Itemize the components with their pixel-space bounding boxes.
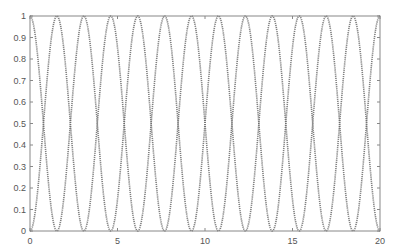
axes-box: [30, 16, 380, 231]
x-tick-label: 20: [375, 236, 385, 246]
plot-area: [30, 16, 380, 231]
y-tick-label: 0.9: [13, 33, 26, 43]
y-tick-label: 0.3: [13, 162, 26, 172]
y-tick-label: 0.8: [13, 54, 26, 64]
y-tick-label: 0.5: [13, 119, 26, 129]
y-tick-label: 0: [21, 226, 26, 236]
y-axis: 00.10.20.30.40.50.60.70.80.91: [13, 11, 380, 236]
series-layer: [30, 16, 380, 231]
x-tick-label: 5: [115, 236, 120, 246]
y-tick-label: 0.6: [13, 97, 26, 107]
x-tick-label: 15: [287, 236, 297, 246]
series-line-1: [30, 16, 380, 231]
x-tick-label: 0: [27, 236, 32, 246]
series-line-2: [30, 16, 380, 231]
line-chart: 05101520 00.10.20.30.40.50.60.70.80.91: [0, 0, 397, 252]
y-tick-label: 0.4: [13, 140, 26, 150]
y-tick-label: 1: [21, 11, 26, 21]
y-tick-label: 0.2: [13, 183, 26, 193]
y-tick-label: 0.7: [13, 76, 26, 86]
x-tick-label: 10: [200, 236, 210, 246]
y-tick-label: 0.1: [13, 205, 26, 215]
